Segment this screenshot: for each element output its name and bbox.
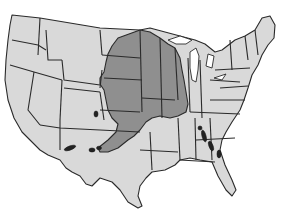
us-map: [0, 0, 287, 217]
us-map-svg: [0, 0, 287, 217]
lake-huron: [206, 54, 214, 68]
